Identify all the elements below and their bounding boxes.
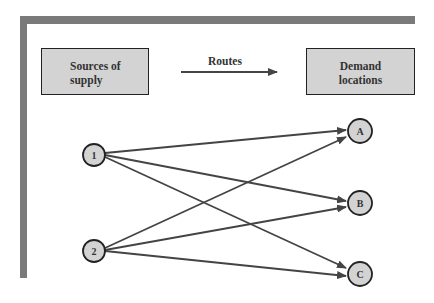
- destination-node-A: A: [348, 119, 372, 143]
- route-1-A: [105, 130, 346, 153]
- svg-text:A: A: [356, 126, 364, 137]
- transportation-network: 1 2 A B C: [0, 0, 434, 303]
- source-node-2: 2: [83, 240, 105, 262]
- route-2-A: [105, 137, 346, 248]
- destination-node-C: C: [348, 262, 372, 286]
- svg-text:C: C: [356, 269, 363, 280]
- source-node-1: 1: [83, 144, 105, 166]
- svg-text:2: 2: [92, 246, 97, 257]
- route-1-C: [105, 157, 346, 268]
- svg-text:1: 1: [92, 150, 97, 161]
- destination-node-B: B: [348, 191, 372, 215]
- route-1-B: [105, 155, 346, 201]
- route-2-C: [105, 251, 346, 276]
- svg-text:B: B: [357, 198, 364, 209]
